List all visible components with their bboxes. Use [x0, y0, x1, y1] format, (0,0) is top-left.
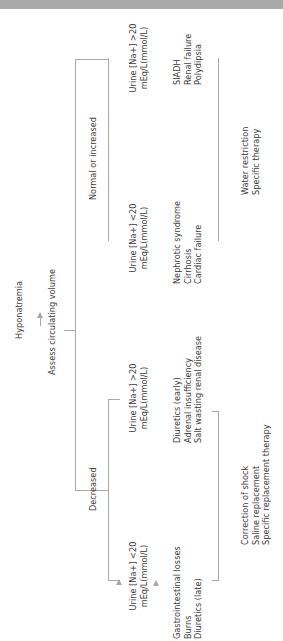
cause-item: SIADH	[172, 34, 183, 85]
decreased-high-urine: Urine [Na+] >20 mEq/L(mmol/L)	[128, 360, 149, 436]
main-bracket-right-tick	[75, 59, 108, 60]
cause-item: Salt wasting renal disease	[193, 336, 204, 443]
decreased-high-causes: Diuretics (early) Adrenal insufficiency …	[172, 336, 204, 443]
normal-treatment-bracket	[218, 58, 219, 241]
decreased-treatment-bracket	[218, 411, 219, 581]
cause-item: Nephrotic syndrome	[172, 201, 183, 284]
cause-item: Diuretics (late)	[193, 546, 204, 639]
normal-label: Normal or increased	[88, 117, 99, 200]
normal-high-urine: Urine [Na+] >20 mEq/L(mmol/L)	[128, 20, 149, 96]
normal-high-causes: SIADH Renal failure Polydipsia	[172, 34, 204, 85]
normal-branch-line	[108, 58, 109, 241]
arrow-root-to-assess	[40, 313, 41, 326]
treatment-item: Specific replacement therapy	[261, 424, 272, 545]
urine-text-2: mEq/L(mmol/L)	[139, 20, 150, 96]
urine-text-1: Urine [Na+] >20	[128, 20, 139, 96]
normal-low-causes: Nephrotic syndrome Cirrhosis Cardiac fai…	[172, 201, 204, 284]
root-node: Hyponatremia	[14, 281, 25, 339]
decreased-low-causes: Gastrointestinal losses Burns Diuretics …	[172, 546, 204, 639]
assess-node: Assess circulating volume	[47, 269, 58, 375]
urine-text-1: Urine [Na+] <20	[128, 200, 139, 276]
treatment-item: Water restriction	[240, 127, 251, 195]
cause-item: Adrenal insufficiency	[183, 336, 194, 443]
decreased-low-urine: Urine [Na+] <20 mEq/L(mmol/L)	[128, 541, 149, 611]
decreased-high-drop	[108, 399, 120, 400]
cause-item: Renal failure	[183, 34, 194, 85]
urine-text-2: mEq/L(mmol/L)	[139, 360, 150, 436]
treatment-item: Saline replacement	[251, 424, 262, 545]
normal-treatment: Water restriction Specific therapy	[240, 127, 261, 195]
treatment-item: Specific therapy	[251, 127, 262, 195]
assess-connector	[64, 330, 75, 331]
cause-item: Gastrointestinal losses	[172, 546, 183, 639]
cause-item: Polydipsia	[193, 34, 204, 85]
urine-text-2: mEq/L(mmol/L)	[139, 200, 150, 276]
decreased-label: Decreased	[88, 467, 99, 511]
cause-item: Cardiac failure	[193, 201, 204, 284]
cause-item: Diuretics (early)	[172, 336, 183, 443]
flowchart: Hyponatremia Assess circulating volume D…	[0, 0, 283, 641]
urine-text-2: mEq/L(mmol/L)	[139, 541, 150, 611]
decreased-treatment-stub	[212, 411, 218, 412]
cause-item: Burns	[183, 546, 194, 639]
decreased-treatment-stub	[212, 580, 218, 581]
decreased-treatment: Correction of shock Saline replacement S…	[240, 424, 272, 545]
decreased-branch-line	[108, 399, 109, 581]
urine-text-1: Urine [Na+] <20	[128, 541, 139, 611]
main-bracket	[75, 59, 76, 491]
urine-text-1: Urine [Na+] >20	[128, 360, 139, 436]
cause-item: Cirrhosis	[183, 201, 194, 284]
treatment-item: Correction of shock	[240, 424, 251, 545]
normal-low-urine: Urine [Na+] <20 mEq/L(mmol/L)	[128, 200, 149, 276]
